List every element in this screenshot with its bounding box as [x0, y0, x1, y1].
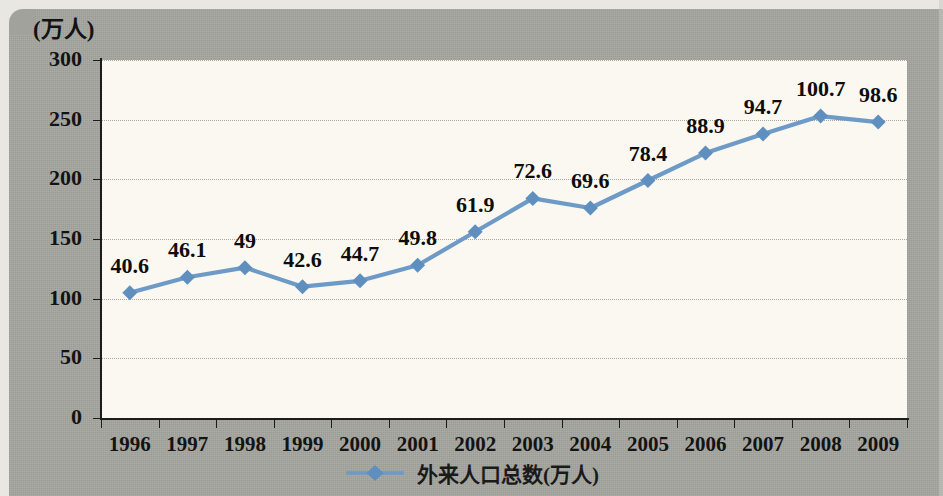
- x-axis-tick: [101, 418, 102, 428]
- gridline: [101, 60, 907, 61]
- gridline: [101, 299, 907, 300]
- x-axis-tick: [792, 418, 793, 428]
- x-axis-tick-label: 2008: [788, 432, 854, 457]
- y-axis-tick: [93, 179, 102, 180]
- x-axis-tick-label: 2009: [845, 432, 911, 457]
- y-axis-unit-label: (万人): [33, 10, 94, 44]
- x-axis-tick-label: 1998: [212, 432, 278, 457]
- data-point-label: 49.8: [383, 225, 453, 251]
- page-corner-inner: [9, 9, 35, 35]
- page-edge-left: [0, 0, 9, 496]
- y-axis-tick-label: 0: [22, 404, 82, 430]
- x-axis-tick: [274, 418, 275, 428]
- x-axis-tick-label: 2006: [673, 432, 739, 457]
- x-axis-tick-label: 1997: [154, 432, 220, 457]
- x-axis-tick-label: 2004: [557, 432, 623, 457]
- y-axis-tick: [93, 120, 102, 121]
- x-axis-tick-label: 2007: [730, 432, 796, 457]
- x-axis-tick: [562, 418, 563, 428]
- gridline: [101, 358, 907, 359]
- y-axis-tick: [93, 60, 102, 61]
- y-axis-tick-label: 250: [22, 106, 82, 132]
- x-axis-tick: [849, 418, 850, 428]
- x-axis-tick: [331, 418, 332, 428]
- x-axis-tick: [677, 418, 678, 428]
- x-axis-tick: [389, 418, 390, 428]
- y-axis-tick: [93, 358, 102, 359]
- data-point-label: 61.9: [440, 192, 510, 218]
- page-edge-top: [0, 0, 943, 9]
- x-axis-tick: [159, 418, 160, 428]
- x-axis-tick: [216, 418, 217, 428]
- data-point-label: 98.6: [843, 82, 913, 108]
- x-axis-tick-label: 2001: [385, 432, 451, 457]
- x-axis-tick-label: 2003: [500, 432, 566, 457]
- y-axis-tick-label: 150: [22, 225, 82, 251]
- x-axis-tick-label: 1999: [270, 432, 336, 457]
- x-axis-tick-label: 2000: [327, 432, 393, 457]
- x-axis-tick: [734, 418, 735, 428]
- x-axis-tick-label: 2002: [442, 432, 508, 457]
- legend-marker-diamond-icon: [344, 463, 406, 483]
- data-point-label: 69.6: [555, 168, 625, 194]
- data-point-label: 78.4: [613, 141, 683, 167]
- x-axis-tick-label: 1996: [97, 432, 163, 457]
- y-axis-tick-label: 50: [22, 344, 82, 370]
- y-axis-tick-label: 100: [22, 285, 82, 311]
- y-axis-tick-label: 200: [22, 165, 82, 191]
- x-axis-tick: [619, 418, 620, 428]
- x-axis-tick: [907, 418, 908, 428]
- y-axis-tick: [93, 239, 102, 240]
- chart-legend: 外来人口总数(万人): [0, 458, 943, 488]
- page-edge-right: [939, 0, 943, 496]
- x-axis-tick-label: 2005: [615, 432, 681, 457]
- x-axis-tick: [504, 418, 505, 428]
- y-axis-tick: [93, 299, 102, 300]
- chart-screenshot: (万人) 050100150200250300 1996199719981999…: [0, 0, 943, 496]
- y-axis-tick-label: 300: [22, 46, 82, 72]
- legend-label: 外来人口总数(万人): [417, 458, 599, 488]
- x-axis-tick: [446, 418, 447, 428]
